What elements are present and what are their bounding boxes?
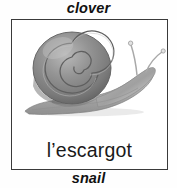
bottom-annotation-snail: snail <box>0 170 177 187</box>
top-annotation-clover: clover <box>0 0 177 17</box>
picture-frame: l’escargot <box>11 19 168 170</box>
flashcard: clover <box>0 0 177 188</box>
snail-illustration <box>12 20 167 141</box>
french-caption: l’escargot <box>12 138 167 162</box>
